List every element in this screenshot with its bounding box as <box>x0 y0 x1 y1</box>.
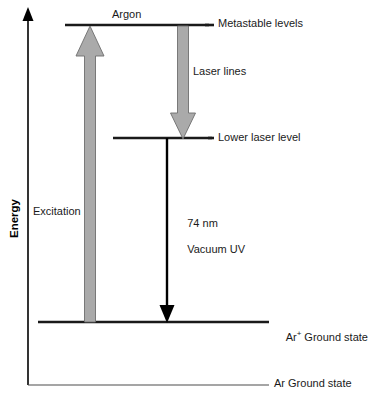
y-axis-label-energy: Energy <box>8 199 20 238</box>
label-ar-plus-ground-state: Ar+ Ground state <box>274 314 368 357</box>
label-ar-plus-rest: Ground state <box>301 331 368 343</box>
label-wavelength: 74 nm <box>187 217 218 229</box>
label-excitation: Excitation <box>33 205 81 218</box>
energy-level-diagram: Energy Argon Metastable levels Laser lin… <box>0 0 368 399</box>
label-ar-ground-state: Ar Ground state <box>274 377 352 390</box>
vacuum-uv-arrowhead <box>160 305 175 323</box>
label-metastable-levels: Metastable levels <box>218 17 303 30</box>
laser-lines-arrow-down-icon <box>171 26 196 139</box>
label-argon: Argon <box>112 8 141 21</box>
label-band: Vacuum UV <box>187 243 245 255</box>
energy-axis-arrowhead-icon <box>23 7 34 21</box>
excitation-arrow-up-icon <box>76 26 104 322</box>
label-ar-plus-symbol: Ar <box>286 331 297 343</box>
label-lower-laser-level: Lower laser level <box>218 131 301 144</box>
label-vacuum-uv-transition: 74 nm Vacuum UV <box>175 204 245 269</box>
label-laser-lines: Laser lines <box>193 65 246 78</box>
vacuum-uv-arrow-down-icon <box>160 138 175 323</box>
energy-axis <box>23 7 34 385</box>
